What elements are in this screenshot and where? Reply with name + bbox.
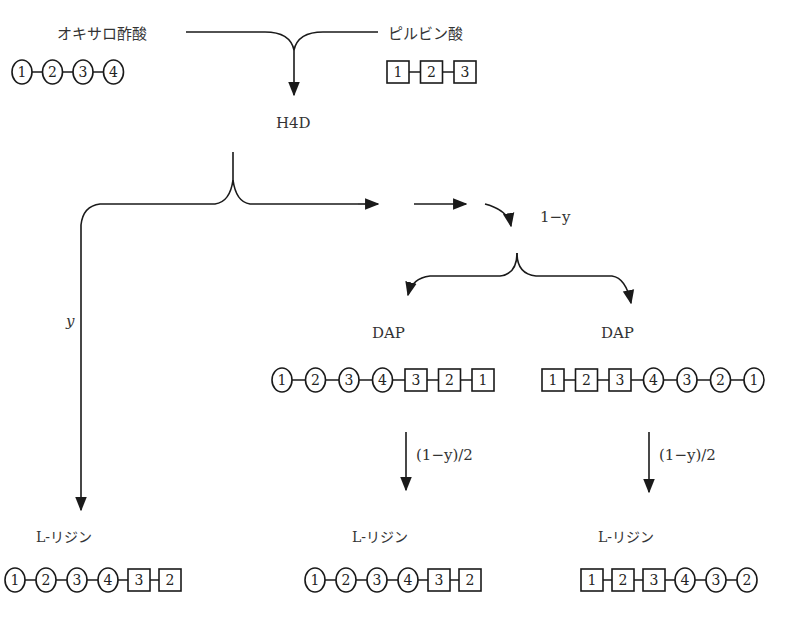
carbon-number: 1 <box>750 372 759 388</box>
carbon-number: 1 <box>311 572 320 588</box>
carbon-number: 1 <box>549 372 558 388</box>
carbon-number: 3 <box>412 372 421 388</box>
carbon-number: 1 <box>11 572 20 588</box>
carbon-number: 3 <box>712 572 721 588</box>
carbon-number: 3 <box>345 372 354 388</box>
carbon-number: 3 <box>683 372 692 388</box>
carbon-number: 4 <box>649 372 658 388</box>
dap-left-chain: 1234321 <box>272 368 494 392</box>
carbon-number: 3 <box>135 572 144 588</box>
carbon-number: 2 <box>311 372 320 388</box>
carbon-number: 4 <box>681 572 690 588</box>
carbon-number: 2 <box>466 572 475 588</box>
carbon-number: 2 <box>582 372 591 388</box>
carbon-number: 4 <box>109 64 118 80</box>
pyruvate-label: ピルビン酸 <box>388 22 463 43</box>
branch-right-label: 1−y <box>540 208 571 226</box>
carbon-number: 1 <box>394 64 403 80</box>
carbon-number: 3 <box>461 64 470 80</box>
carbon-number: 1 <box>588 572 597 588</box>
carbon-number: 4 <box>404 572 413 588</box>
lysine-1-label: L-リジン <box>36 526 92 546</box>
carbon-number: 1 <box>479 372 488 388</box>
split-to-dap-right <box>517 253 631 303</box>
carbon-number: 2 <box>42 572 51 588</box>
dap-right-label: DAP <box>601 324 634 342</box>
lysine-3-chain: 123432 <box>581 568 757 592</box>
pyruvate-chain: 123 <box>387 61 476 83</box>
oxaloacetate-chain: 1234 <box>12 60 124 84</box>
carbon-number: 3 <box>373 572 382 588</box>
carbon-number: 2 <box>619 572 628 588</box>
lysine-3-label: L-リジン <box>598 526 654 546</box>
carbon-number: 3 <box>73 572 82 588</box>
arrow-curve-down <box>485 204 511 226</box>
carbon-number: 2 <box>166 572 175 588</box>
carbon-number: 4 <box>378 372 387 388</box>
branch-left-label: y <box>66 312 74 330</box>
h4d-label: H4D <box>276 114 311 132</box>
carbon-number: 3 <box>650 572 659 588</box>
dap-right-chain: 1234321 <box>542 368 764 392</box>
lysine-2-label: L-リジン <box>352 526 408 546</box>
branch-y-path <box>81 180 233 510</box>
carbon-number: 2 <box>445 372 454 388</box>
carbon-number: 2 <box>427 64 436 80</box>
carbon-number: 2 <box>48 64 57 80</box>
lysine-1-chain: 123432 <box>5 568 181 592</box>
split-to-dap <box>408 253 517 295</box>
carbon-number: 2 <box>342 572 351 588</box>
dap-left-label: DAP <box>372 324 405 342</box>
flux-dap-left-label: (1−y)/2 <box>416 446 473 464</box>
flux-dap-right-label: (1−y)/2 <box>659 446 716 464</box>
carbon-number: 2 <box>716 372 725 388</box>
carbon-number: 1 <box>278 372 287 388</box>
oxaloacetate-label: オキサロ酢酸 <box>57 22 147 43</box>
lysine-2-chain: 123432 <box>305 568 481 592</box>
split-from-h4d <box>233 152 358 204</box>
carbon-number: 3 <box>435 572 444 588</box>
carbon-number: 4 <box>104 572 113 588</box>
carbon-number: 1 <box>18 64 27 80</box>
carbon-number: 2 <box>743 572 752 588</box>
carbon-number: 3 <box>79 64 88 80</box>
carbon-number: 3 <box>616 372 625 388</box>
merge-arrow <box>186 32 378 50</box>
